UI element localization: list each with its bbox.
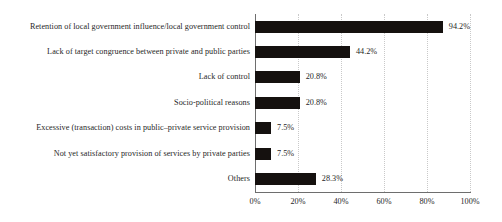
- x-tick-label: 0%: [250, 196, 261, 208]
- bar-rows: Retention of local government influence/…: [0, 14, 502, 192]
- category-label: Lack of target congruence between privat…: [0, 47, 250, 57]
- bar-row: Lack of target congruence between privat…: [0, 39, 502, 64]
- bar-value-label: 44.2%: [356, 47, 377, 57]
- x-tick-label: 100%: [460, 196, 479, 208]
- x-tick-label: 60%: [376, 196, 391, 208]
- category-label: Socio-political reasons: [0, 98, 250, 108]
- bar-track: 44.2%: [255, 39, 470, 64]
- bar-track: 7.5%: [255, 116, 470, 141]
- bar: [255, 46, 350, 58]
- bar: [255, 71, 300, 83]
- bar-track: 20.8%: [255, 90, 470, 115]
- bar: [255, 21, 443, 33]
- bar: [255, 122, 271, 134]
- x-tick-label: 20%: [290, 196, 305, 208]
- bar-row: Excessive (transaction) costs in public–…: [0, 116, 502, 141]
- bar-track: 20.8%: [255, 65, 470, 90]
- x-axis-line: [255, 192, 471, 193]
- category-label: Others: [0, 174, 250, 184]
- bar-value-label: 28.3%: [322, 174, 343, 184]
- category-label: Retention of local government influence/…: [0, 22, 250, 32]
- bar: [255, 97, 300, 109]
- category-label: Not yet satisfactory provision of servic…: [0, 149, 250, 159]
- x-tick-label: 40%: [333, 196, 348, 208]
- x-axis-tick-labels: 0% 20% 40% 60% 80% 100%: [0, 196, 502, 212]
- category-label: Lack of control: [0, 72, 250, 82]
- x-tick-label: 80%: [419, 196, 434, 208]
- bar-track: 28.3%: [255, 166, 470, 191]
- bar-value-label: 20.8%: [306, 72, 327, 82]
- bar-row: Not yet satisfactory provision of servic…: [0, 141, 502, 166]
- bar-row: Lack of control 20.8%: [0, 65, 502, 90]
- bar-value-label: 7.5%: [277, 149, 294, 159]
- bar-value-label: 20.8%: [306, 98, 327, 108]
- bar-row: Retention of local government influence/…: [0, 14, 502, 39]
- bar-row: Socio-political reasons 20.8%: [0, 90, 502, 115]
- bar-track: 94.2%: [255, 14, 470, 39]
- bar-track: 7.5%: [255, 141, 470, 166]
- bar-chart: Retention of local government influence/…: [0, 0, 502, 222]
- bar-value-label: 7.5%: [277, 123, 294, 133]
- bar: [255, 173, 316, 185]
- bar-value-label: 94.2%: [449, 22, 470, 32]
- bar: [255, 148, 271, 160]
- bar-row: Others 28.3%: [0, 166, 502, 191]
- category-label: Excessive (transaction) costs in public–…: [0, 123, 250, 133]
